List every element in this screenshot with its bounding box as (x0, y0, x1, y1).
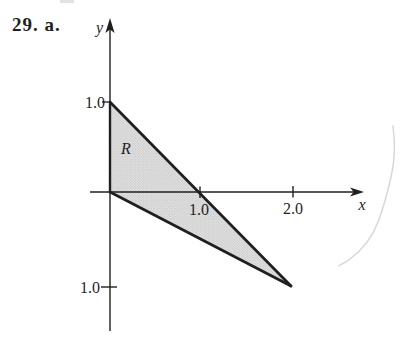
y-tick-label-positive: 1.0 (85, 94, 105, 111)
scan-smudge (60, 0, 74, 3)
region-R-label: R (120, 140, 131, 157)
paper-background (0, 0, 401, 337)
figure-canvas: 29. a. y x 1.0 1.0 1.0 2.0 R (0, 0, 401, 337)
textbook-figure-page: 29. a. y x 1.0 1.0 1.0 2.0 R (0, 0, 401, 337)
y-axis-label: y (94, 19, 104, 37)
y-tick-label-negative: 1.0 (80, 279, 100, 296)
problem-number-label: 29. a. (12, 14, 61, 35)
x-axis-label: x (357, 196, 365, 213)
x-tick-label-2: 2.0 (283, 200, 303, 217)
x-tick-label-1: 1.0 (189, 201, 209, 218)
